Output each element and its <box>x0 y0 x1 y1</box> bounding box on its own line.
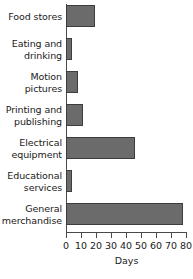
x-axis-tick-label: 70 <box>165 240 177 252</box>
bar <box>66 5 95 27</box>
x-axis-tick <box>156 232 157 238</box>
bar <box>66 170 72 192</box>
x-axis-title: Days <box>66 255 187 267</box>
x-axis-tick-label: 20 <box>90 240 102 252</box>
bar <box>66 71 78 93</box>
bar-category-label: General merchandise <box>0 198 62 231</box>
bar <box>66 104 83 126</box>
x-axis-tick <box>171 232 172 238</box>
x-axis-tick-label: 10 <box>75 240 87 252</box>
bar <box>66 38 72 60</box>
x-axis-tick-label: 80 <box>180 240 192 252</box>
bar-rows: Food storesEating and drinkingMotion pic… <box>0 0 193 232</box>
x-axis-tick-label: 0 <box>63 240 69 252</box>
bar-category-label: Eating and drinking <box>0 33 62 66</box>
x-axis-tick <box>96 232 97 238</box>
bar-row: General merchandise <box>0 198 193 231</box>
x-axis-tick <box>186 232 187 238</box>
x-axis-tick-label: 40 <box>120 240 132 252</box>
x-axis-tick-label: 50 <box>135 240 147 252</box>
x-axis-tick <box>81 232 82 238</box>
bar-row: Printing and publishing <box>0 99 193 132</box>
bar-track <box>66 198 193 231</box>
x-axis-tick <box>111 232 112 238</box>
x-axis-tick-label: 30 <box>105 240 117 252</box>
bar-row: Electrical equipment <box>0 132 193 165</box>
bar-track <box>66 99 193 132</box>
plot-area: Food storesEating and drinkingMotion pic… <box>0 0 193 232</box>
x-axis-tick <box>141 232 142 238</box>
bar-track <box>66 33 193 66</box>
bar-category-label: Motion pictures <box>0 66 62 99</box>
bar-track <box>66 165 193 198</box>
x-axis-tick <box>66 232 67 238</box>
bar <box>66 203 183 225</box>
bar-row: Eating and drinking <box>0 33 193 66</box>
bar-category-label: Electrical equipment <box>0 132 62 165</box>
x-axis-tick-label: 60 <box>150 240 162 252</box>
bar-row: Motion pictures <box>0 66 193 99</box>
bar-category-label: Educational services <box>0 165 62 198</box>
bar-category-label: Food stores <box>0 0 62 33</box>
x-axis-tick <box>126 232 127 238</box>
bar <box>66 137 135 159</box>
bar-track <box>66 66 193 99</box>
bar-track <box>66 132 193 165</box>
bar-row: Educational services <box>0 165 193 198</box>
bar-row: Food stores <box>0 0 193 33</box>
bar-track <box>66 0 193 33</box>
x-axis-tick-labels: 01020304050607080 <box>0 240 193 254</box>
bar-category-label: Printing and publishing <box>0 99 62 132</box>
bar-chart: Food storesEating and drinkingMotion pic… <box>0 0 193 279</box>
